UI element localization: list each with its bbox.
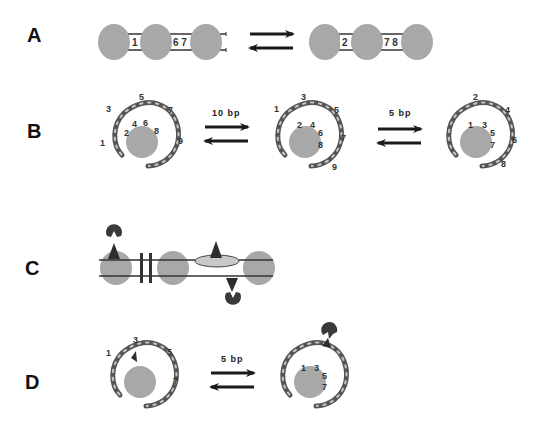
bp-number: 5 [490,128,495,138]
linker-number: 1 [132,37,138,48]
protein-icon [321,322,337,339]
bp-number: 3 [133,335,138,345]
panel-a-left-chromatin: 1 6 7 [98,24,226,60]
bp-number: 4 [310,120,315,130]
bp-number: 3 [482,120,487,130]
equilibrium-arrows [250,34,293,48]
bp-number: 3 [106,104,111,114]
bp-number: 7 [341,133,346,143]
transition-label: 5 bp [389,108,412,118]
bp-number: 5 [167,347,172,357]
bp-number: 8 [154,126,159,136]
nucleosome [190,24,222,60]
bp-number: 8 [501,159,506,169]
triangle-marker [210,241,222,258]
bp-number: 5 [139,92,144,102]
nucleosome-helix-state-1: 5 3 7 1 9 2 4 6 8 [100,92,183,166]
bp-number: 1 [100,138,105,148]
linker-number: 2 [342,37,348,48]
bp-number: 4 [132,119,137,129]
bp-number: 3 [301,92,306,102]
bp-number: 8 [318,140,323,150]
barrier-bar [149,253,152,283]
transition-5bp: 5 bp [378,108,421,143]
bp-number: 7 [490,140,495,150]
transition-10bp: 10 bp [205,108,248,141]
transition-label: 5 bp [221,354,244,364]
bp-number: 2 [297,120,302,130]
panel-a-right-chromatin: 2 7 8 [309,24,433,60]
nucleosome [243,251,275,285]
bp-number: 2 [124,128,129,138]
bp-number: 9 [178,136,183,146]
nucleosome [401,24,433,60]
nucleosome [309,24,341,60]
protein-icon [225,292,241,305]
bp-number: 7 [168,105,173,115]
bp-number: 9 [332,162,337,172]
panel-d: 1 3 5 7 5 bp 1 3 5 7 [106,322,347,406]
protein-icon [106,224,122,237]
bp-number: 2 [473,92,478,102]
bp-number: 3 [314,363,319,373]
bp-number: 1 [106,348,111,358]
nucleosome-helix-d-state-1: 1 3 5 7 [106,335,178,406]
panel-c [99,224,275,305]
bp-number: 5 [334,105,339,115]
triangle-marker [108,243,120,259]
figure-canvas: 1 6 7 2 7 8 5 3 7 [0,0,534,428]
nucleosome [157,251,189,285]
transition-5bp-d: 5 bp [211,354,254,387]
linker-number: 7 8 [384,37,398,48]
bp-number: 6 [318,128,323,138]
panel-b: 5 3 7 1 9 2 4 6 8 10 bp 3 1 5 7 9 2 4 [100,92,517,172]
bp-number: 6 [512,135,517,145]
nucleosome [140,24,172,60]
bp-number: 5 [322,371,327,381]
bp-number: 7 [322,382,327,392]
barrier-bar [140,253,143,283]
nucleosome [351,24,383,60]
nucleosome-helix-d-state-2: 1 3 5 7 [283,322,347,406]
bp-number: 1 [468,120,473,130]
triangle-marker [226,278,238,292]
transition-label: 10 bp [212,108,241,118]
bp-number: 6 [143,118,148,128]
bp-number: 1 [274,104,279,114]
nucleosome [98,24,130,60]
bp-number: 7 [173,376,178,386]
nucleosome-helix-state-2: 3 1 5 7 9 2 4 6 8 [274,92,346,172]
bp-number: 1 [301,363,306,373]
linker-number: 6 7 [173,37,187,48]
bp-number: 4 [505,105,510,115]
nucleosome-helix-state-3: 2 4 6 8 1 3 5 7 [449,92,517,169]
panel-a: 1 6 7 2 7 8 [98,24,433,60]
